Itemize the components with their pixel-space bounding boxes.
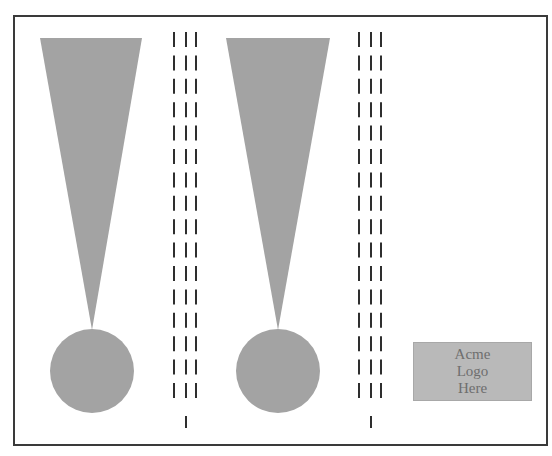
logo-text-line-3: Here <box>458 380 487 397</box>
logo-placeholder: Acme Logo Here <box>413 342 532 401</box>
logo-text-line-2: Logo <box>457 363 489 380</box>
logo-text-line-1: Acme <box>455 346 491 363</box>
